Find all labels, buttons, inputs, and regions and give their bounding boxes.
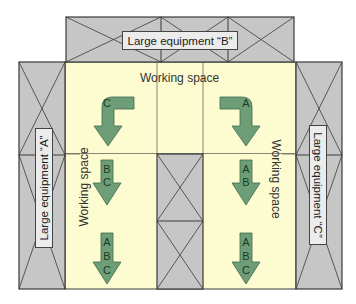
floor-layout-diagram: Large equipment “B” Large equipment “A” … bbox=[0, 0, 356, 304]
arrow-letter-b-botright: B bbox=[240, 250, 252, 262]
equipment-a-label: Large equipment “A” bbox=[35, 128, 53, 248]
arrow-letter-b-midleft: B bbox=[101, 163, 113, 175]
arrow-letter-c-top: C bbox=[101, 97, 113, 109]
arrow-letter-a-midright: A bbox=[240, 163, 252, 175]
arrow-letter-b-midright: B bbox=[240, 176, 252, 188]
arrow-letter-c-midleft: C bbox=[101, 176, 113, 188]
equipment-b-label: Large equipment “B” bbox=[122, 31, 238, 50]
arrow-letter-a-botright: A bbox=[240, 236, 252, 248]
arrow-letter-c-botleft: C bbox=[101, 264, 113, 276]
working-space-right-label: Working space bbox=[269, 137, 283, 221]
arrow-letter-a-top: A bbox=[240, 97, 252, 109]
arrow-letter-c-botright: C bbox=[240, 264, 252, 276]
arrow-letter-b-botleft: B bbox=[101, 250, 113, 262]
working-space-top-label: Working space bbox=[140, 71, 219, 85]
equipment-c-label: Large equipment “C” bbox=[309, 125, 327, 245]
working-space-left-label: Working space bbox=[77, 145, 91, 229]
center-equipment-block bbox=[157, 154, 203, 289]
arrow-letter-a-botleft: A bbox=[101, 236, 113, 248]
